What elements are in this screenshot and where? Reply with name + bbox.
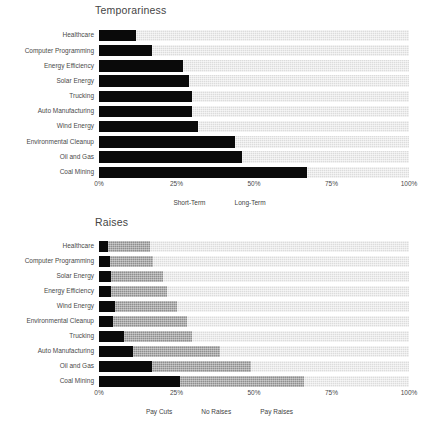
bar-segment-pay-raises bbox=[304, 376, 409, 387]
stacked-bar bbox=[99, 30, 409, 41]
category-label: Energy Efficiency bbox=[44, 63, 99, 70]
plot-area-temporariness: HealthcareComputer ProgrammingEnergy Eff… bbox=[99, 28, 409, 180]
bar-segment-pay-raises bbox=[163, 271, 409, 282]
bar-segment-long-term bbox=[198, 121, 409, 132]
stacked-bar bbox=[99, 376, 409, 387]
category-label: Oil and Gas bbox=[60, 154, 99, 161]
stacked-bar bbox=[99, 256, 409, 267]
legend-label: Short-Term bbox=[173, 199, 205, 206]
stacked-bar bbox=[99, 91, 409, 102]
x-tick-label: 75% bbox=[325, 180, 338, 187]
legend-item[interactable]: No Raises bbox=[186, 407, 231, 416]
bar-segment-pay-raises bbox=[150, 241, 409, 252]
bar-row: Coal Mining bbox=[99, 374, 409, 389]
bar-row: Trucking bbox=[99, 89, 409, 104]
bar-segment-no-raises bbox=[113, 316, 187, 327]
category-label: Coal Mining bbox=[60, 378, 99, 385]
bar-segment-short-term bbox=[99, 136, 235, 147]
legend-item[interactable]: Short-Term bbox=[158, 198, 205, 207]
legend-label: Pay Cuts bbox=[146, 408, 172, 415]
chart-title-raises: Raises bbox=[95, 216, 128, 228]
bar-row: Trucking bbox=[99, 329, 409, 344]
bar-row: Energy Efficiency bbox=[99, 58, 409, 73]
legend-label: Long-Term bbox=[235, 199, 266, 206]
bar-segment-pay-cuts bbox=[99, 301, 115, 312]
bar-segment-pay-raises bbox=[220, 346, 409, 357]
category-label: Auto Manufacturing bbox=[38, 108, 99, 115]
bar-segment-pay-cuts bbox=[99, 241, 108, 252]
legend-item[interactable]: Pay Cuts bbox=[131, 407, 172, 416]
bar-segment-pay-raises bbox=[251, 361, 409, 372]
bar-segment-long-term bbox=[152, 45, 409, 56]
legend-swatch-icon bbox=[131, 407, 142, 416]
bar-row: Coal Mining bbox=[99, 165, 409, 180]
bar-segment-short-term bbox=[99, 106, 192, 117]
bar-segment-long-term bbox=[192, 106, 409, 117]
stacked-bar bbox=[99, 361, 409, 372]
bar-row: Healthcare bbox=[99, 28, 409, 43]
legend-swatch-icon bbox=[220, 198, 231, 207]
bar-row: Oil and Gas bbox=[99, 359, 409, 374]
legend-item[interactable]: Long-Term bbox=[220, 198, 266, 207]
x-axis-raises: 0%25%50%75%100% bbox=[99, 389, 409, 403]
bar-segment-short-term bbox=[99, 121, 198, 132]
x-tick-label: 0% bbox=[94, 180, 103, 187]
chart-title-temporariness: Temporariness bbox=[95, 4, 166, 16]
bar-segment-short-term bbox=[99, 151, 242, 162]
bar-row: Oil and Gas bbox=[99, 150, 409, 165]
stacked-bar bbox=[99, 60, 409, 71]
legend-item[interactable]: Pay Raises bbox=[245, 407, 293, 416]
category-label: Wind Energy bbox=[57, 123, 99, 130]
category-label: Trucking bbox=[69, 93, 99, 100]
category-label: Healthcare bbox=[63, 32, 99, 39]
legend-swatch-icon bbox=[245, 407, 256, 416]
category-label: Solar Energy bbox=[56, 78, 99, 85]
stacked-bar bbox=[99, 316, 409, 327]
bar-segment-short-term bbox=[99, 30, 136, 41]
bar-segment-short-term bbox=[99, 45, 152, 56]
bar-row: Computer Programming bbox=[99, 254, 409, 269]
bar-row: Wind Energy bbox=[99, 119, 409, 134]
x-axis-temporariness: 0%25%50%75%100% bbox=[99, 180, 409, 194]
bar-segment-short-term bbox=[99, 167, 307, 178]
bar-segment-pay-cuts bbox=[99, 376, 180, 387]
bar-segment-long-term bbox=[242, 151, 409, 162]
category-label: Healthcare bbox=[63, 243, 99, 250]
category-label: Computer Programming bbox=[25, 48, 99, 55]
x-tick-label: 100% bbox=[401, 180, 418, 187]
category-label: Coal Mining bbox=[60, 169, 99, 176]
bar-row: Environmental Cleanup bbox=[99, 134, 409, 149]
category-label: Environmental Cleanup bbox=[26, 318, 99, 325]
bar-segment-short-term bbox=[99, 60, 183, 71]
bar-segment-no-raises bbox=[110, 256, 153, 267]
bar-segment-pay-raises bbox=[167, 286, 409, 297]
chart-panel-raises: Raises HealthcareComputer ProgrammingSol… bbox=[0, 215, 424, 430]
legend-label: Pay Raises bbox=[260, 408, 293, 415]
stacked-bar bbox=[99, 121, 409, 132]
category-label: Oil and Gas bbox=[60, 363, 99, 370]
stacked-bar bbox=[99, 75, 409, 86]
bar-segment-long-term bbox=[136, 30, 409, 41]
stacked-bar bbox=[99, 136, 409, 147]
x-tick-label: 75% bbox=[325, 389, 338, 396]
bar-row: Wind Energy bbox=[99, 299, 409, 314]
bar-segment-no-raises bbox=[124, 331, 192, 342]
legend-label: No Raises bbox=[201, 408, 231, 415]
stacked-bar bbox=[99, 45, 409, 56]
stacked-bar bbox=[99, 241, 409, 252]
bar-segment-long-term bbox=[192, 91, 409, 102]
bar-segment-no-raises bbox=[111, 286, 167, 297]
category-label: Environmental Cleanup bbox=[26, 139, 99, 146]
category-label: Solar Energy bbox=[56, 273, 99, 280]
bar-segment-short-term bbox=[99, 91, 192, 102]
stacked-bar bbox=[99, 346, 409, 357]
stacked-bar bbox=[99, 286, 409, 297]
stacked-bar bbox=[99, 167, 409, 178]
bar-row: Solar Energy bbox=[99, 269, 409, 284]
bar-row: Healthcare bbox=[99, 239, 409, 254]
bar-segment-short-term bbox=[99, 75, 189, 86]
bar-segment-no-raises bbox=[108, 241, 150, 252]
x-tick-label: 50% bbox=[247, 389, 260, 396]
stacked-bar bbox=[99, 151, 409, 162]
bar-row: Energy Efficiency bbox=[99, 284, 409, 299]
